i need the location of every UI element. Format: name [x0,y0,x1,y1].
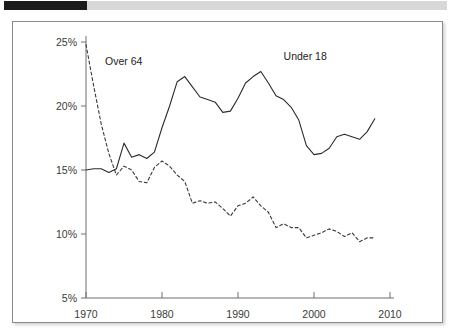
annotation-label-over-64: Over 64 [105,55,143,67]
chart-figure: 5%10%15%20%25%19701980199020002010Over 6… [12,21,443,323]
series-line-over-64 [86,45,375,242]
header-bar-gray-segment [87,1,447,10]
x-tick-label: 2000 [302,308,326,320]
y-tick-label: 10% [56,228,77,240]
annotation-label-under-18: Under 18 [284,50,327,62]
x-tick-label: 2010 [378,308,402,320]
y-tick-label: 20% [56,100,77,112]
series-line-under-18 [86,71,375,172]
y-tick-label: 25% [56,36,77,48]
line-chart: 5%10%15%20%25%19701980199020002010Over 6… [13,22,442,322]
x-tick-label: 1980 [150,308,174,320]
x-tick-label: 1970 [74,308,98,320]
decorative-header-bar [0,0,455,11]
header-bar-black-segment [4,1,87,10]
y-tick-label: 15% [56,164,77,176]
y-tick-label: 5% [62,292,77,304]
x-tick-label: 1990 [226,308,250,320]
